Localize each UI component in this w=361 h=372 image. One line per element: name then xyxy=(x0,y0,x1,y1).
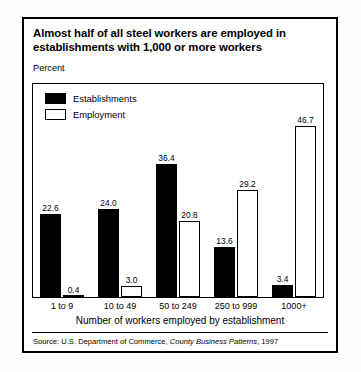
bar-employment-3 xyxy=(237,190,258,297)
source-prefix: Source: U.S. Department of Commerce, xyxy=(33,337,168,346)
bar-employment-0 xyxy=(63,295,84,297)
value-label-employment-0: 0.4 xyxy=(68,285,80,295)
value-label-employment-2: 20.8 xyxy=(181,210,197,220)
plot-area: Establishments Employment 22.60.424.03.0… xyxy=(32,83,324,298)
x-tick-1: 10 to 49 xyxy=(104,301,137,311)
page-title: Almost half of all steel workers are emp… xyxy=(33,27,329,54)
bar-establishments-1 xyxy=(98,209,119,297)
y-axis-label: Percent xyxy=(33,63,65,73)
value-label-employment-3: 29.2 xyxy=(239,179,255,189)
x-tick-2: 50 to 249 xyxy=(159,301,197,311)
bar-employment-2 xyxy=(179,221,200,297)
value-label-establishments-0: 22.6 xyxy=(42,203,58,213)
value-label-establishments-1: 24.0 xyxy=(100,198,116,208)
value-label-establishments-2: 36.4 xyxy=(158,153,174,163)
chart-figure: Almost half of all steel workers are emp… xyxy=(22,17,338,353)
footer-divider xyxy=(32,332,328,333)
x-tick-4: 1000+ xyxy=(281,301,306,311)
bar-establishments-4 xyxy=(272,285,293,297)
bar-establishments-3 xyxy=(214,247,235,297)
value-label-establishments-4: 3.4 xyxy=(277,274,289,284)
value-label-establishments-3: 13.6 xyxy=(216,236,232,246)
bar-establishments-0 xyxy=(40,214,61,297)
source-note: Source: U.S. Department of Commerce, Cou… xyxy=(33,337,278,346)
source-publication: County Business Patterns xyxy=(170,337,257,346)
x-tick-3: 250 to 999 xyxy=(215,301,258,311)
source-suffix: , 1997 xyxy=(257,337,278,346)
x-axis-title: Number of workers employed by establishm… xyxy=(24,315,336,326)
bar-employment-4 xyxy=(295,126,316,297)
value-label-employment-4: 46.7 xyxy=(297,115,313,125)
bar-container: 22.60.424.03.036.420.813.629.23.446.7 xyxy=(33,84,323,297)
bar-employment-1 xyxy=(121,286,142,297)
value-label-employment-1: 3.0 xyxy=(126,275,138,285)
x-tick-0: 1 to 9 xyxy=(51,301,74,311)
bar-establishments-2 xyxy=(156,164,177,297)
